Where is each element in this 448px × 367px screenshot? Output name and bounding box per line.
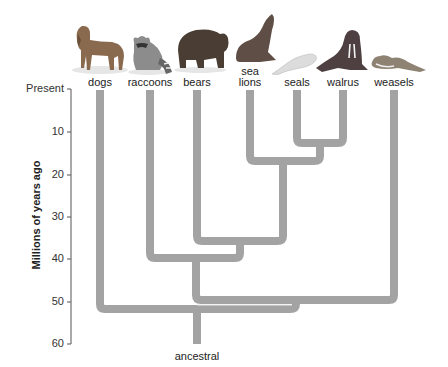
taxon-label-weasels: weasels bbox=[369, 77, 419, 88]
y-axis bbox=[0, 0, 448, 367]
tick-50: 50 bbox=[24, 295, 64, 307]
tick-10: 10 bbox=[24, 125, 64, 137]
taxon-label-dogs: dogs bbox=[80, 77, 120, 88]
taxon-label-sea-lions-line2: lions bbox=[230, 77, 270, 88]
taxon-label-walrus: walrus bbox=[321, 77, 365, 88]
tick-present: Present bbox=[24, 82, 64, 94]
taxon-label-seals: seals bbox=[277, 77, 317, 88]
root-label: ancestral bbox=[167, 351, 227, 362]
taxon-label-raccoons: raccoons bbox=[125, 77, 175, 88]
y-axis-label: Millions of years ago bbox=[30, 150, 42, 280]
tick-60: 60 bbox=[24, 337, 64, 349]
taxon-label-bears: bears bbox=[177, 77, 217, 88]
